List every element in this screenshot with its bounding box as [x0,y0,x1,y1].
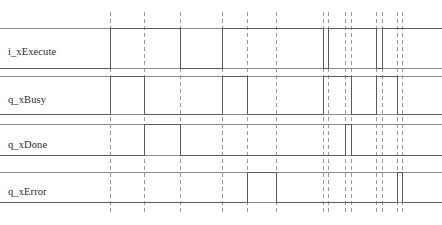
signal-label-i_xExecute: i_xExecute [8,47,56,58]
waveform-i_xExecute [0,29,442,69]
waveform-q_xDone [0,125,442,156]
timing-diagram: i_xExecuteq_xBusyq_xDoneq_xError [0,0,442,225]
waveform-q_xError [0,173,442,203]
signal-label-q_xBusy: q_xBusy [8,95,46,106]
waveform-q_xBusy [0,77,442,115]
gridlines-group [111,12,403,214]
waveform-canvas [0,0,442,225]
signal-waveforms-group [0,29,442,203]
signal-rails-group [0,29,442,203]
signal-label-q_xError: q_xError [8,187,47,198]
signal-label-q_xDone: q_xDone [8,140,47,151]
